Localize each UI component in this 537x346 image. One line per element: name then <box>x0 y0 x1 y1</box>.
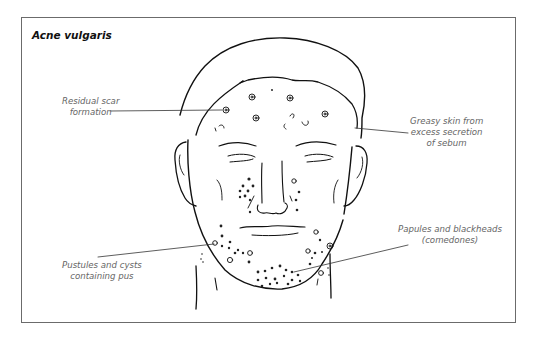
face-left-contour <box>188 140 343 289</box>
label-residual-scar: Residual scar formation <box>62 96 119 118</box>
forehead-lesions <box>215 94 328 131</box>
leader-papules <box>294 245 408 272</box>
chin-pustules <box>213 230 333 285</box>
leader-scar <box>110 110 222 111</box>
nose <box>257 161 287 214</box>
left-eye <box>228 154 255 162</box>
hairline-left <box>196 81 243 135</box>
left-eyebrow <box>219 143 256 146</box>
head-outline <box>180 38 365 138</box>
right-ear <box>344 146 367 206</box>
leader-greasy <box>355 128 408 133</box>
cheek-papules <box>220 177 301 227</box>
label-greasy-skin: Greasy skin from excess secretion of seb… <box>410 116 483 149</box>
right-eye <box>305 154 333 162</box>
leader-pustules <box>98 244 214 257</box>
neck-right <box>330 254 331 298</box>
face-illustration <box>0 0 537 346</box>
mouth <box>240 226 305 228</box>
left-ear <box>175 142 196 206</box>
neck-left <box>196 266 197 309</box>
label-papules-blackheads: Papules and blackheads (comedones) <box>398 224 502 246</box>
right-eyebrow <box>296 142 336 146</box>
label-pustules-cysts: Pustules and cysts containing pus <box>62 260 142 282</box>
